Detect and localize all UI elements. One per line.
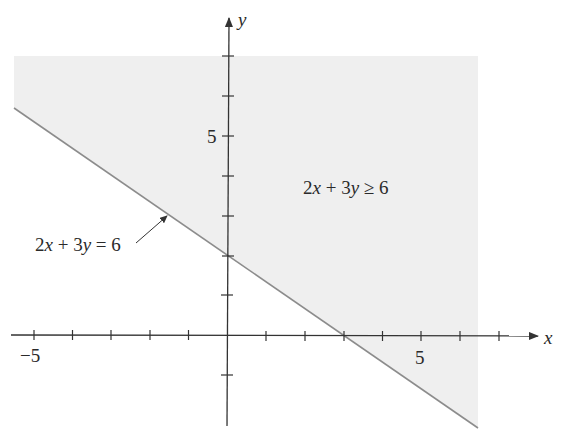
boundary-line-label: 2x + 3y = 6 <box>35 234 121 255</box>
region-label: 2x + 3y ≥ 6 <box>303 177 389 198</box>
inequality-graph: y x −5 5 5 2x + 3y ≥ 6 2x + 3y = 6 <box>0 0 561 433</box>
tick-label-x-neg5: −5 <box>20 345 40 366</box>
x-axis-label: x <box>543 327 553 348</box>
y-axis-label: y <box>236 9 247 30</box>
tick-label-y-5: 5 <box>207 126 217 147</box>
annotation-arrow <box>136 216 167 243</box>
tick-label-x-5: 5 <box>415 347 425 368</box>
